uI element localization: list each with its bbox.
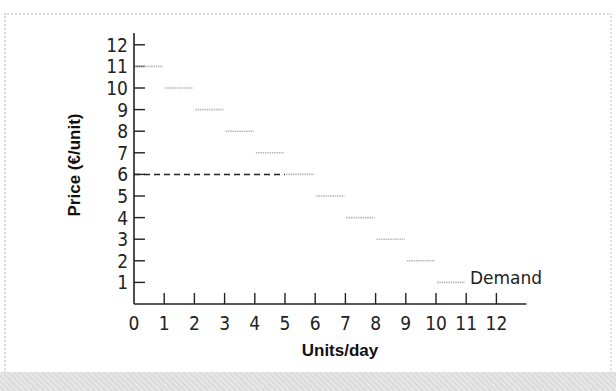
y-tick-label: 7 [117,142,128,164]
x-tick-label: 0 [129,312,140,334]
y-tick-label: 1 [117,271,128,293]
y-tick-label: 9 [117,99,128,121]
y-tick-label: 2 [117,250,128,272]
demand-label: Demand [470,268,542,288]
x-axis-title: Units/day [302,341,379,360]
y-tick-label: 12 [106,34,128,56]
y-tick-label: 10 [106,77,128,99]
x-tick-label: 5 [280,312,291,334]
y-tick-label: 5 [117,185,128,207]
x-tick-label: 11 [455,312,477,334]
y-axis-ticks: 123456789101112 [106,34,145,294]
y-tick-label: 4 [117,207,128,229]
y-tick-label: 11 [106,55,128,77]
x-tick-label: 6 [310,312,321,334]
x-tick-label: 9 [400,312,411,334]
demand-chart: 0123456789101112 123456789101112 Units/d… [0,0,616,391]
y-tick-label: 8 [117,120,128,142]
x-axis-ticks: 0123456789101112 [129,293,508,334]
x-tick-label: 4 [249,312,260,334]
x-tick-label: 10 [425,312,447,334]
axes [134,33,526,304]
y-axis-title: Price (€/unit) [65,114,84,217]
x-tick-label: 8 [370,312,381,334]
x-tick-label: 1 [159,312,170,334]
y-tick-label: 3 [117,228,128,250]
x-tick-label: 3 [219,312,230,334]
x-tick-label: 2 [189,312,200,334]
y-tick-label: 6 [117,163,128,185]
x-tick-label: 12 [486,312,508,334]
x-tick-label: 7 [340,312,351,334]
